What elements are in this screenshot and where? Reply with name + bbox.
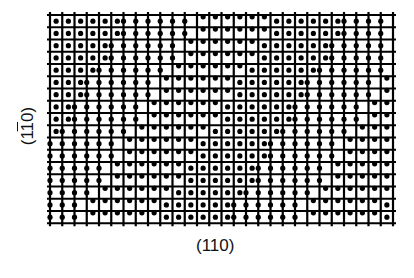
y-axis-label-part-3: 0) — [18, 107, 37, 122]
y-axis-label-overbar: 1 — [18, 122, 37, 131]
y-axis-label: (110) — [18, 96, 38, 156]
y-axis-label-part-1: (1 — [18, 131, 37, 145]
x-axis-label: (110) — [196, 236, 234, 256]
